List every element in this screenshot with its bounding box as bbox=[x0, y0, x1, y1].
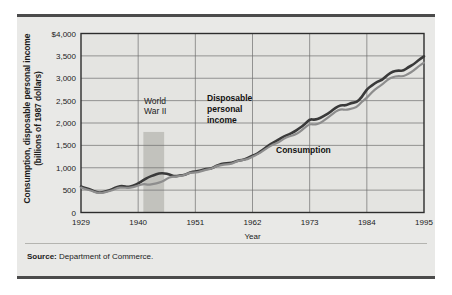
disposable-personal-income-label: Disposable bbox=[207, 93, 253, 103]
y-tick-label: 1,000 bbox=[56, 164, 77, 173]
consumption-label: Consumption bbox=[276, 145, 331, 155]
y-tick-label: $4,000 bbox=[52, 30, 77, 39]
x-tick-label: 1951 bbox=[186, 218, 204, 227]
disposable-personal-income-label: personal bbox=[207, 104, 242, 114]
y-tick-label: 2,000 bbox=[56, 119, 77, 128]
y-tick-label: 1,500 bbox=[56, 141, 77, 150]
x-tick-label: 1995 bbox=[415, 218, 433, 227]
x-tick-label: 1984 bbox=[358, 218, 376, 227]
x-tick-label: 1929 bbox=[72, 218, 90, 227]
source-label: Source: bbox=[27, 252, 57, 261]
x-tick-label: 1962 bbox=[244, 218, 262, 227]
chart-figure: Consumption, disposable personal income … bbox=[0, 0, 452, 295]
y-tick-label: 3,000 bbox=[56, 74, 77, 83]
y-tick-label: 3,500 bbox=[56, 52, 77, 61]
y-tick-label: 2,500 bbox=[56, 97, 77, 106]
y-tick-label: 0 bbox=[72, 209, 77, 218]
source-value: Department of Commerce. bbox=[59, 252, 153, 261]
disposable-personal-income-label: income bbox=[207, 115, 237, 125]
source-note: Source: Department of Commerce. bbox=[27, 252, 153, 261]
chart-plot: 05001,0001,5002,0002,5003,0003,500$4,000… bbox=[0, 0, 452, 295]
world-war-ii-label: World bbox=[144, 96, 166, 106]
x-tick-label: 1973 bbox=[301, 218, 319, 227]
x-axis-title: Year bbox=[244, 232, 261, 241]
x-tick-label: 1940 bbox=[129, 218, 147, 227]
world-war-ii-label: War II bbox=[144, 106, 166, 116]
y-tick-label: 500 bbox=[63, 186, 77, 195]
